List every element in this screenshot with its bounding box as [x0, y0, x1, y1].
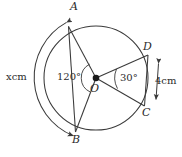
arc-length-label-xcm: xcm [6, 72, 27, 82]
point-label-C: C [142, 107, 150, 118]
point-label-D: D [143, 41, 152, 52]
angle-label-30: 30° [120, 73, 138, 83]
angle-arc-doc [115, 69, 118, 89]
point-label-B: B [72, 134, 80, 145]
point-label-O: O [90, 83, 99, 94]
point-label-A: A [70, 1, 78, 12]
length-label-4cm: 4cm [155, 76, 176, 86]
geometry-figure: A B C D O 120° 30° xcm 4cm [0, 0, 182, 157]
centre-point-dot [93, 75, 100, 82]
angle-label-120: 120° [57, 72, 81, 82]
angle-arc-aob [81, 64, 90, 92]
